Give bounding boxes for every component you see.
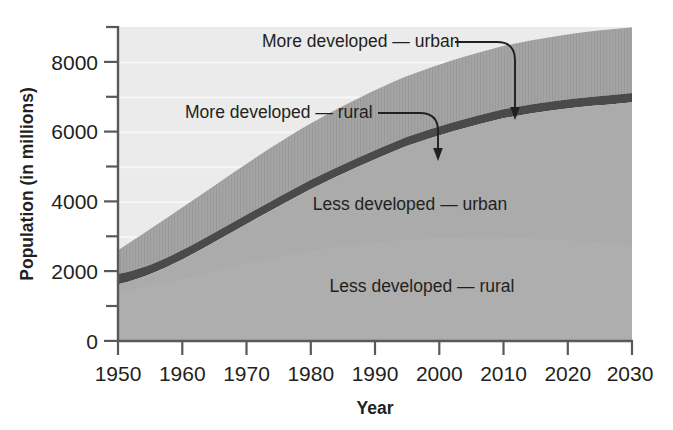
x-tick-label-1970: 1970 [223, 362, 270, 385]
x-ticks [118, 341, 632, 355]
x-tick-label-2000: 2000 [416, 362, 463, 385]
x-tick-label-1960: 1960 [159, 362, 206, 385]
y-tick-label-8000: 8000 [51, 51, 98, 74]
chart-svg: 8000 6000 4000 2000 0 1950 1960 1970 198… [0, 0, 673, 430]
x-tick-label-2030: 2030 [607, 362, 654, 385]
y-axis-title: Population (in millions) [17, 87, 37, 280]
label-more-developed-urban: More developed — urban [262, 31, 459, 51]
y-tick-label-6000: 6000 [51, 120, 98, 143]
y-tick-label-0: 0 [86, 330, 98, 353]
x-tick-label-1990: 1990 [352, 362, 399, 385]
population-area-chart: 8000 6000 4000 2000 0 1950 1960 1970 198… [0, 0, 673, 430]
x-axis-title: Year [357, 398, 394, 418]
x-tick-label-2020: 2020 [544, 362, 591, 385]
y-tick-label-2000: 2000 [51, 260, 98, 283]
label-less-developed-rural: Less developed — rural [330, 276, 515, 296]
x-tick-label-1950: 1950 [95, 362, 142, 385]
x-tick-label-1980: 1980 [287, 362, 334, 385]
y-ticks [104, 27, 118, 341]
y-tick-label-4000: 4000 [51, 190, 98, 213]
x-tick-label-2010: 2010 [480, 362, 527, 385]
label-less-developed-urban: Less developed — urban [313, 194, 508, 214]
label-more-developed-rural: More developed — rural [185, 102, 373, 122]
